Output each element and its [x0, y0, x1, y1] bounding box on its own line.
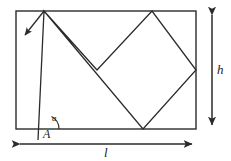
geometry-figure: h l A a — [0, 0, 231, 161]
direction-arrow — [25, 11, 44, 35]
length-label: l — [104, 146, 108, 159]
height-label: h — [217, 63, 224, 76]
figure-canvas — [0, 0, 231, 161]
reflecting-path — [38, 11, 196, 140]
angle-label: a — [52, 114, 57, 123]
vertex-label-a-upper: A — [43, 128, 50, 140]
